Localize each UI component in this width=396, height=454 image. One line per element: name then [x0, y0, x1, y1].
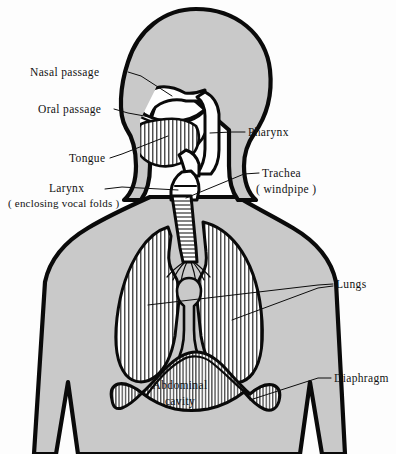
label-oral-passage: Oral passage — [38, 103, 101, 116]
label-lungs: Lungs — [336, 278, 367, 291]
label-trachea: Trachea — [262, 167, 301, 179]
label-pharynx: Pharynx — [248, 126, 289, 139]
label-diaphragm: Diaphragm — [334, 372, 389, 385]
label-nasal-passage: Nasal passage — [30, 66, 99, 79]
label-tongue: Tongue — [69, 152, 105, 165]
label-trachea-subtitle: ( windpipe ) — [256, 183, 316, 196]
respiratory-system-figure: Nasal passage Oral passage Tongue Larynx… — [0, 0, 396, 454]
anatomy-diagram: Nasal passage Oral passage Tongue Larynx… — [0, 0, 396, 454]
label-abdominal-cavity-line2: cavity — [165, 395, 195, 408]
label-abdominal-cavity: Abdominal — [153, 379, 208, 391]
label-larynx-subtitle: ( enclosing vocal folds ) — [8, 197, 119, 210]
label-larynx: Larynx — [49, 182, 84, 195]
